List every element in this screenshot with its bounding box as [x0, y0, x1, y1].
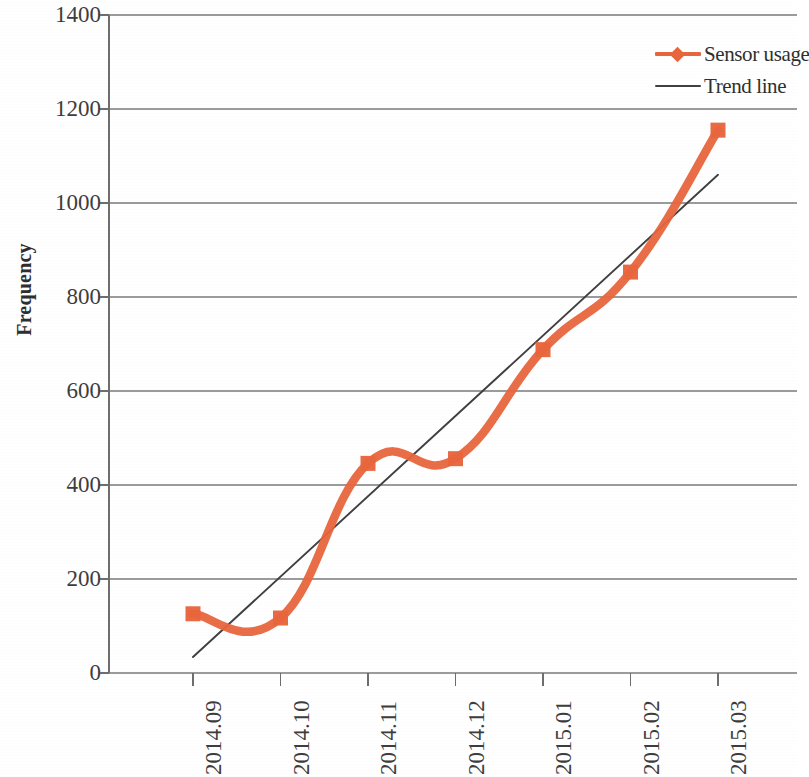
legend-swatch-trend-line: [655, 77, 701, 95]
data-point-marker[interactable]: [186, 606, 201, 621]
legend-swatch-sensor-usage: [655, 45, 701, 63]
legend-label-sensor-usage: Sensor usage: [704, 42, 809, 67]
trendline-series: [193, 175, 718, 657]
data-point-marker[interactable]: [361, 456, 376, 471]
data-point-marker[interactable]: [536, 342, 551, 357]
data-point-marker[interactable]: [448, 451, 463, 466]
data-point-marker[interactable]: [273, 611, 288, 626]
legend-item-sensor-usage[interactable]: Sensor usage: [655, 38, 805, 70]
sensor-usage-series-line: [193, 130, 718, 632]
data-point-marker[interactable]: [623, 265, 638, 280]
legend-item-trend-line[interactable]: Trend line: [655, 70, 805, 102]
chart-legend: Sensor usage Trend line: [655, 38, 805, 102]
data-point-marker[interactable]: [711, 123, 726, 138]
legend-label-trend-line: Trend line: [704, 74, 786, 99]
